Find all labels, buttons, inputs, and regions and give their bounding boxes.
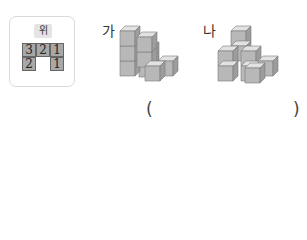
answer-close-paren: ) bbox=[293, 99, 300, 119]
answer-blank[interactable] bbox=[158, 101, 292, 121]
answer-open-paren: ( bbox=[146, 99, 153, 119]
